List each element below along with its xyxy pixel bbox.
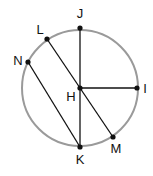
point-m <box>110 134 115 139</box>
circle-diagram: J L N H I K M <box>0 0 153 176</box>
point-j <box>77 25 82 30</box>
label-i: I <box>143 81 147 96</box>
label-j: J <box>77 6 84 21</box>
point-k <box>77 144 82 149</box>
label-h: H <box>66 89 75 104</box>
label-k: K <box>76 152 85 167</box>
segment-nk <box>28 62 80 147</box>
label-m: M <box>111 141 122 156</box>
point-h <box>77 85 82 90</box>
point-n <box>25 59 30 64</box>
point-i <box>134 85 139 90</box>
label-n: N <box>13 53 22 68</box>
point-l <box>44 36 49 41</box>
label-l: L <box>36 22 43 37</box>
